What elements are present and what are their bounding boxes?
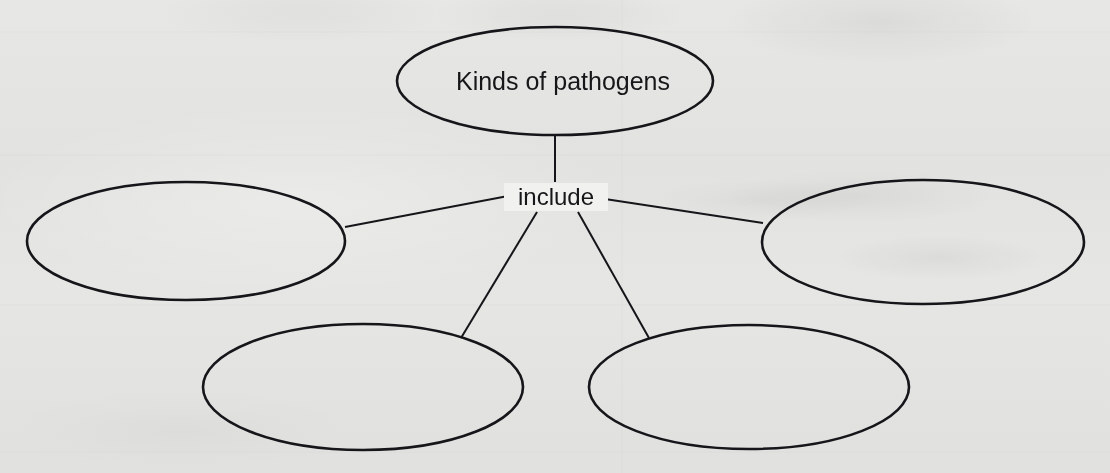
edge-hub-to-left-node	[345, 196, 508, 227]
node-branch-bottom-right-ellipse[interactable]	[589, 325, 909, 449]
edge-hub-to-right-node	[605, 199, 763, 223]
edge-hub-to-bottom-left-node	[461, 212, 537, 338]
concept-map-diagram: include Kinds of pathogens	[0, 0, 1110, 473]
edge-label-include: include	[518, 183, 594, 210]
worksheet-page: include Kinds of pathogens	[0, 0, 1110, 473]
node-branch-right-ellipse[interactable]	[762, 180, 1084, 304]
node-branch-left-ellipse[interactable]	[27, 182, 345, 300]
node-root-label: Kinds of pathogens	[456, 67, 670, 95]
connector-group	[345, 136, 763, 338]
node-branch-bottom-left-ellipse[interactable]	[203, 324, 523, 450]
edge-hub-to-bottom-right-node	[578, 212, 649, 338]
